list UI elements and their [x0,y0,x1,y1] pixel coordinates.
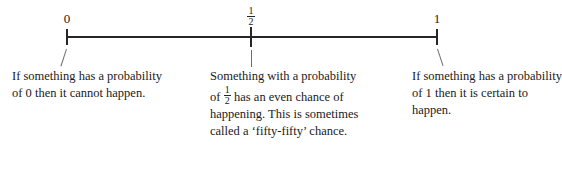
caption-half-text: Something with a probability of 12 has a… [210,68,360,140]
inline-fraction-one-half: 12 [224,85,231,106]
leader-line-half [251,50,252,67]
tick-label-zero: 0 [57,12,77,25]
caption-one-text: If something has a probability of 1 then… [412,68,562,118]
tick-mark-zero [66,29,68,45]
caption-zero: If something has a probability of 0 then… [12,68,172,102]
caption-half-text-part2: has an even chance of happening. This is… [210,90,358,138]
caption-zero-text: If something has a probability of 0 then… [12,68,172,102]
fraction-numerator: 1 [247,6,254,16]
caption-one: If something has a probability of 1 then… [412,68,562,118]
tick-label-half: 1 2 [241,6,261,27]
fraction-one-half: 1 2 [247,6,254,27]
fraction-denominator: 2 [247,16,254,27]
inline-fraction-numerator: 1 [224,85,231,95]
leader-line-one [437,49,444,66]
tick-mark-half [250,27,252,47]
tick-mark-one [436,29,438,45]
inline-fraction-denominator: 2 [224,95,231,106]
tick-label-one: 1 [427,12,447,25]
caption-half: Something with a probability of 12 has a… [210,68,360,140]
leader-line-zero [60,49,67,66]
